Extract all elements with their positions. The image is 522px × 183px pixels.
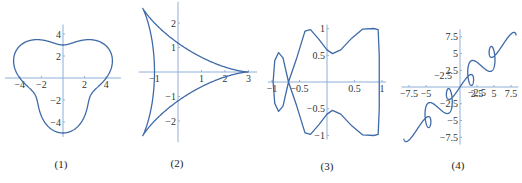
plot-3: −1−0.50.51−1−0.50.51 [267,23,386,141]
extra-label: −2.5 [468,87,486,98]
x-tick-label: 2 [223,73,228,84]
plot-2: −1123−2−112 [139,2,257,142]
y-tick-label: −2 [165,116,176,127]
y-tick-label: −0.5 [307,103,325,114]
y-tick-label: 4 [56,29,61,40]
plot-1: −4−224−4−224 [5,25,121,138]
y-tick-label: 2 [56,51,61,62]
caption-2: (2) [171,157,184,169]
x-tick-label: 1 [380,83,385,94]
y-tick-label: 0.5 [313,50,326,61]
y-tick-label: 2 [171,18,176,29]
y-tick-label: −4 [50,117,61,128]
x-tick-label: −0.5 [290,83,308,94]
caption-3: (3) [321,160,334,172]
y-tick-label: 1 [171,42,176,53]
caption-1: (1) [55,158,68,170]
extra-label: −2.5 [434,70,452,81]
y-tick-label: −1 [314,130,325,141]
y-tick-label: −2 [50,95,61,106]
x-tick-label: −1 [267,83,278,94]
y-tick-label: 7.5 [446,31,459,42]
y-tick-label: −1 [165,91,176,102]
y-tick-label: −5 [447,115,458,126]
caption-4: (4) [452,159,465,171]
x-tick-label: 7.5 [505,88,518,99]
y-tick-label: 5 [453,48,458,59]
x-tick-label: −7.5 [400,88,418,99]
plot-4: −7.5−52.557.57.552.5−2.5−5−7.5−2.5−2.5 [400,29,518,144]
y-tick-label: −7.5 [440,132,458,143]
x-tick-label: 3 [246,73,251,84]
x-tick-label: −5 [421,88,432,99]
x-tick-label: 2 [82,79,87,90]
x-tick-label: 1 [199,73,204,84]
x-tick-label: −2 [36,79,47,90]
y-tick-label: 1 [320,23,325,34]
x-tick-label: −4 [14,79,25,90]
x-tick-label: 0.5 [348,83,361,94]
figure-canvas: −4−224−4−224−1123−2−112−1−0.50.51−1−0.50… [0,0,522,183]
x-tick-label: 5 [492,88,497,99]
